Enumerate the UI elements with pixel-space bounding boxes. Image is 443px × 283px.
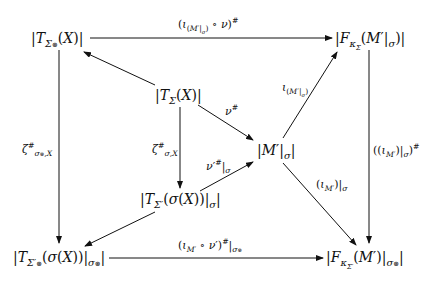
label-iota-M-prime-sigma: (ιM′)|σ — [316, 179, 348, 190]
node-top-right: |FκΣ(M′|σ)| — [335, 31, 405, 48]
label-nu-prime-sharp: ν′#|σ — [206, 161, 231, 172]
label-iota-M-sigma: ι(M′|σ) — [282, 82, 308, 95]
node-center-bottom: |TΣ′(σ(X))|σ| — [140, 192, 221, 206]
node-middle: |M′|σ| — [257, 143, 295, 157]
label-top: (ι(M′|σ) ∘ ν)# — [178, 19, 238, 32]
label-right: ((ιM′)|σ)# — [373, 145, 420, 156]
arrow-center-top-to-top-left — [84, 52, 155, 85]
node-center-top: |TΣ(X)| — [155, 88, 202, 102]
label-left: ζ#σ⊛,X — [22, 144, 52, 155]
node-bottom-left: |TΣ′⊛(σ(X))|σ⊛| — [13, 250, 105, 264]
label-nu-sharp: ν# — [225, 106, 238, 117]
node-bottom-right: |FκΣ′(M′)|σ⊛| — [326, 250, 404, 267]
arrow-center-bottom-to-bottom-left — [85, 212, 155, 246]
node-top-left: |TΣ⊛(X)| — [31, 31, 83, 45]
label-center-vertical: ζ#σ,X — [152, 144, 178, 155]
arrow-iota-M-prime-sigma — [283, 163, 356, 245]
label-bottom: (ιM′ ∘ ν′)#|σ⊛ — [178, 240, 242, 251]
